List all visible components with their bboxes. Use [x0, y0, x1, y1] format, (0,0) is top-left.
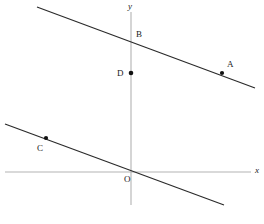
point-dot-d: [129, 71, 134, 76]
point-dot-c: [44, 136, 48, 140]
point-dot-a: [220, 71, 224, 75]
point-label-b: B: [136, 30, 142, 39]
point-label-c: C: [37, 144, 43, 153]
x-axis-label: x: [255, 166, 259, 175]
diagram-canvas: [0, 0, 264, 224]
coordinate-diagram: A B C D O x y: [0, 0, 264, 224]
point-label-a: A: [227, 60, 234, 69]
lower-line: [5, 124, 224, 205]
point-label-d: D: [117, 69, 124, 78]
upper-line: [37, 7, 255, 88]
y-axis-label: y: [128, 2, 132, 11]
origin-label: O: [124, 175, 131, 184]
